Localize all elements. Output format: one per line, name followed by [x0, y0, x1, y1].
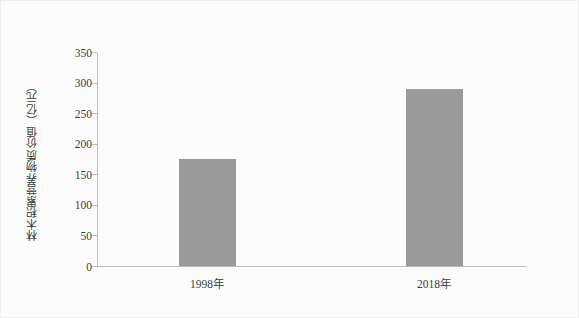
bar-1998 [179, 159, 236, 266]
y-tick-mark [92, 174, 97, 175]
y-tick-label: 250 [75, 108, 92, 120]
y-tick-100: 100 [97, 205, 98, 206]
y-tick-mark [92, 144, 97, 145]
y-tick-mark [92, 83, 97, 84]
y-tick-label: 100 [75, 199, 92, 211]
plot-area: 0 50 100 150 200 250 300 350 [97, 53, 526, 267]
y-tick-label: 0 [86, 261, 92, 273]
y-tick-mark [92, 235, 97, 236]
bar-2018 [406, 89, 463, 266]
y-tick-label: 300 [75, 77, 92, 89]
y-tick-0: 0 [97, 266, 98, 267]
chart-figure: 林木积累营养物质价值（亿元） 0 50 100 150 200 250 [0, 0, 579, 318]
y-tick-200: 200 [97, 144, 98, 145]
y-tick-label: 200 [75, 138, 92, 150]
y-tick-50: 50 [97, 235, 98, 236]
x-tick-label-1998: 1998年 [190, 275, 224, 291]
y-tick-350: 350 [97, 52, 98, 53]
y-axis-title-text: 林木积累营养物质价值（亿元） [27, 80, 38, 241]
y-tick-label: 150 [75, 169, 92, 181]
y-tick-label: 50 [81, 230, 93, 242]
y-tick-mark [92, 266, 97, 267]
y-tick-150: 150 [97, 174, 98, 175]
y-tick-300: 300 [97, 83, 98, 84]
y-tick-label: 350 [75, 47, 92, 59]
y-tick-mark [92, 205, 97, 206]
y-tick-250: 250 [97, 113, 98, 114]
y-tick-mark [92, 113, 97, 114]
y-axis-title: 林木积累营养物质价值（亿元） [23, 53, 41, 267]
x-tick-label-2018: 2018年 [417, 275, 451, 291]
y-tick-mark [92, 52, 97, 53]
x-axis-line [97, 266, 526, 267]
